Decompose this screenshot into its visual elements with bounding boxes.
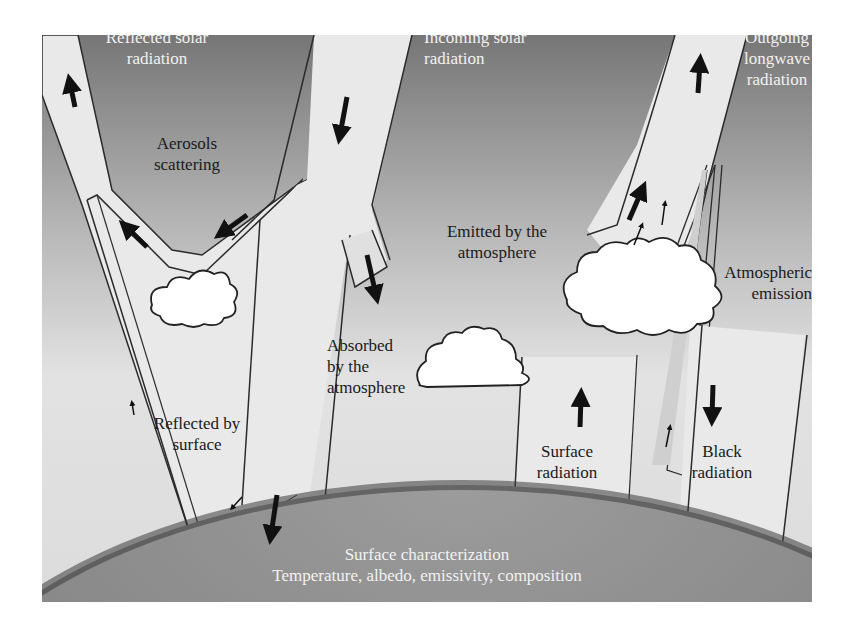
arrow-up-outgoing-icon (698, 63, 700, 93)
label-outgoing-longwave: Outgoing longwave radiation (742, 35, 812, 90)
label-surface-properties: Temperature, albedo, emissivity, composi… (42, 565, 812, 586)
label-surface-characterization: Surface characterization (42, 544, 812, 565)
radiation-budget-diagram: Reflected solar radiation Incoming solar… (42, 35, 812, 602)
label-black-radiation: Black radiation (667, 441, 777, 483)
label-surface-radiation: Surface radiation (522, 441, 612, 483)
label-reflected-solar: Reflected solar radiation (92, 35, 222, 69)
label-reflected-by-surface: Reflected by surface (142, 413, 252, 455)
label-absorbed-by-atmosphere: Absorbed by the atmosphere (327, 335, 405, 398)
label-incoming-solar: Incoming solar radiation (424, 35, 526, 69)
label-aerosols-scattering: Aerosols scattering (147, 133, 227, 175)
label-emitted-by-atmosphere: Emitted by the atmosphere (432, 221, 562, 263)
arrow-up-surface-radiation-icon (580, 397, 581, 427)
label-atmospheric-emission: Atmospheric emission (692, 262, 812, 304)
diagram-canvas (42, 35, 812, 602)
arrow-down-black-radiation-icon (712, 385, 713, 417)
